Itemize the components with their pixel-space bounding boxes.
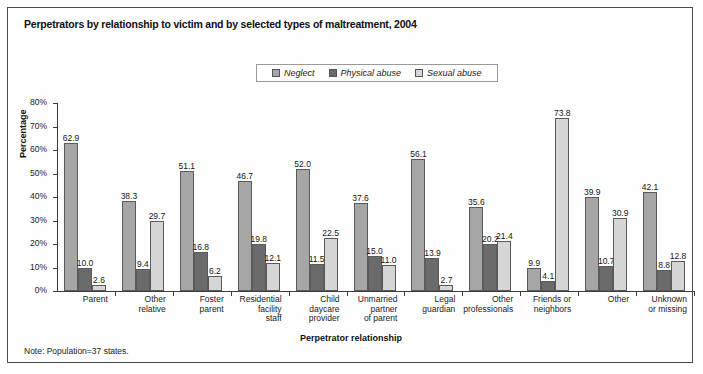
y-axis-tick-label: 70%: [30, 121, 47, 131]
x-axis-category-label: Child daycare provider: [289, 295, 340, 324]
bar-physical-abuse[interactable]: 16.8: [194, 252, 208, 291]
x-axis-category-label: Other: [578, 295, 629, 305]
bar-physical-abuse[interactable]: 15.0: [368, 256, 382, 291]
bar-value-label: 9.4: [137, 260, 149, 269]
bar-value-label: 12.8: [670, 252, 687, 261]
bar-sexual-abuse[interactable]: 12.1: [266, 263, 280, 291]
x-axis-line: [57, 291, 694, 292]
bar-value-label: 8.8: [658, 261, 670, 270]
bar-value-label: 11.5: [309, 255, 325, 264]
bar-value-label: 12.1: [264, 254, 281, 263]
bar-value-label: 29.7: [149, 212, 166, 221]
legend-label: Sexual abuse: [427, 68, 482, 78]
legend-label: Physical abuse: [341, 68, 402, 78]
bar-physical-abuse[interactable]: 4.1: [541, 281, 555, 291]
x-axis-title: Perpetrator relationship: [8, 333, 694, 343]
bar-value-label: 46.7: [236, 172, 253, 181]
bar-group: 39.910.730.9Other: [578, 103, 636, 291]
bar-value-label: 38.3: [121, 192, 138, 201]
bar-value-label: 56.1: [410, 150, 427, 159]
bar-group: 62.910.02.6Parent: [57, 103, 115, 291]
legend-swatch-icon: [272, 69, 280, 77]
x-axis-category-label: Foster parent: [173, 295, 224, 314]
legend-item-neglect[interactable]: Neglect: [272, 68, 315, 78]
legend-item-sexual-abuse[interactable]: Sexual abuse: [415, 68, 482, 78]
bar-value-label: 9.9: [528, 259, 540, 268]
x-axis-category-label: Unmarried partner of parent: [347, 295, 398, 324]
bar-group: 38.39.429.7Other relative: [115, 103, 173, 291]
bar-physical-abuse[interactable]: 8.8: [657, 270, 671, 291]
bar-value-label: 22.5: [322, 229, 339, 238]
bar-value-label: 51.1: [179, 162, 196, 171]
bar-group: 52.011.522.5Child daycare provider: [289, 103, 347, 291]
bar-physical-abuse[interactable]: 9.4: [136, 269, 150, 291]
bar-value-label: 21.4: [496, 232, 513, 241]
legend-swatch-icon: [329, 69, 337, 77]
y-axis-tick-label: 10%: [30, 262, 47, 272]
bar-sexual-abuse[interactable]: 21.4: [497, 241, 511, 291]
bar-sexual-abuse[interactable]: 29.7: [150, 221, 164, 291]
bar-neglect[interactable]: 56.1: [411, 159, 425, 291]
bar-physical-abuse[interactable]: 11.5: [310, 264, 324, 291]
bar-sexual-abuse[interactable]: 11.0: [382, 265, 396, 291]
y-axis-tick-label: 30%: [30, 215, 47, 225]
bar-sexual-abuse[interactable]: 6.2: [208, 276, 222, 291]
bar-neglect[interactable]: 52.0: [296, 169, 310, 291]
x-axis-category-label: Friends or neighbors: [520, 295, 571, 314]
legend-swatch-icon: [415, 69, 423, 77]
page-title: Perpetrators by relationship to victim a…: [24, 18, 417, 30]
bar-sexual-abuse[interactable]: 12.8: [671, 261, 685, 291]
bar-neglect[interactable]: 35.6: [469, 207, 483, 291]
bar-physical-abuse[interactable]: 20.2: [483, 244, 497, 291]
legend-label: Neglect: [284, 68, 315, 78]
y-axis-tick-label: 40%: [30, 191, 47, 201]
bar-neglect[interactable]: 51.1: [180, 171, 194, 291]
bar-group: 35.620.221.4Other professionals: [462, 103, 520, 291]
bar-physical-abuse[interactable]: 13.9: [425, 258, 439, 291]
bar-value-label: 11.0: [381, 256, 397, 265]
bar-sexual-abuse[interactable]: 2.6: [92, 285, 106, 291]
bar-value-label: 62.9: [63, 134, 80, 143]
y-axis-tick-label: 50%: [30, 168, 47, 178]
bar-sexual-abuse[interactable]: 73.8: [555, 118, 569, 291]
bar-group: 56.113.92.7Legal guardian: [404, 103, 462, 291]
bar-neglect[interactable]: 62.9: [64, 143, 78, 291]
bar-value-label: 30.9: [612, 209, 629, 218]
x-axis-category-label: Legal guardian: [404, 295, 455, 314]
bar-group: 42.18.812.8Unknown or missing: [636, 103, 694, 291]
bar-sexual-abuse[interactable]: 30.9: [613, 218, 627, 291]
bar-value-label: 6.2: [209, 267, 221, 276]
bar-neglect[interactable]: 9.9: [527, 268, 541, 291]
bar-sexual-abuse[interactable]: 2.7: [439, 285, 453, 291]
y-axis-title: Percentage: [18, 109, 28, 158]
bar-value-label: 2.6: [93, 276, 105, 285]
bar-neglect[interactable]: 39.9: [585, 197, 599, 291]
figure-panel: Perpetrators by relationship to victim a…: [7, 7, 693, 363]
bar-physical-abuse[interactable]: 19.8: [252, 244, 266, 291]
bar-value-label: 42.1: [642, 183, 659, 192]
x-axis-category-label: Other relative: [115, 295, 166, 314]
y-axis-tick-label: 20%: [30, 238, 47, 248]
bar-physical-abuse[interactable]: 10.7: [599, 266, 613, 291]
bar-sexual-abuse[interactable]: 22.5: [324, 238, 338, 291]
bar-value-label: 10.0: [77, 259, 94, 268]
bar-value-label: 19.8: [250, 235, 267, 244]
x-axis-category-label: Other professionals: [462, 295, 513, 314]
bar-group: 51.116.86.2Foster parent: [173, 103, 231, 291]
bar-neglect[interactable]: 42.1: [643, 192, 657, 291]
bar-group: 37.615.011.0Unmarried partner of parent: [347, 103, 405, 291]
plot-area: 0%10%20%30%40%50%60%70%80%62.910.02.6Par…: [57, 103, 694, 291]
bar-physical-abuse[interactable]: 10.0: [78, 268, 92, 292]
bar-neglect[interactable]: 38.3: [122, 201, 136, 291]
bar-group: 46.719.812.1Residential facility staff: [231, 103, 289, 291]
bar-value-label: 10.7: [598, 257, 615, 266]
bar-group: 9.94.173.8Friends or neighbors: [520, 103, 578, 291]
bar-value-label: 52.0: [294, 160, 311, 169]
bar-value-label: 37.6: [352, 194, 369, 203]
legend-item-physical-abuse[interactable]: Physical abuse: [329, 68, 402, 78]
bar-value-label: 2.7: [441, 276, 453, 285]
y-axis-tick-label: 60%: [30, 144, 47, 154]
bar-value-label: 73.8: [554, 109, 571, 118]
x-axis-category-label: Unknown or missing: [636, 295, 687, 314]
bar-value-label: 13.9: [424, 249, 441, 258]
